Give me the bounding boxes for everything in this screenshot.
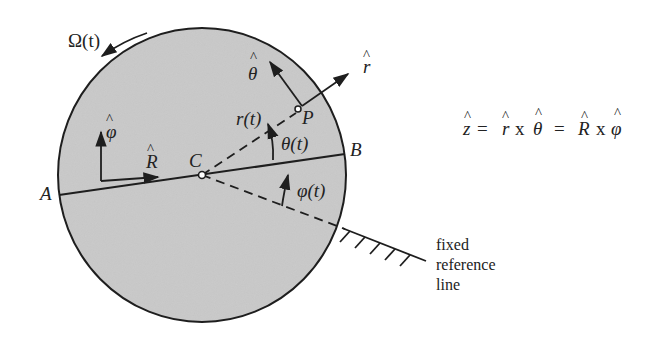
fixed-reference-caption: fixed reference line	[436, 236, 496, 293]
point-p-label: P	[301, 107, 314, 128]
point-b-label: B	[350, 139, 362, 160]
ground-hatch-icon	[340, 228, 426, 266]
caption-line-3: line	[436, 276, 460, 293]
cross-product-equation: ^ z = ^ r x ^ θ = ^ R x ^ φ	[462, 105, 622, 139]
phi-hat-label: φ	[106, 121, 117, 142]
theta-of-t-label: θ(t)	[281, 133, 308, 155]
point-c-label: C	[189, 150, 202, 171]
point-p-marker	[295, 106, 301, 112]
equation-equals-1: =	[477, 118, 488, 139]
equation-cross-1: x	[515, 118, 525, 139]
caption-line-2: reference	[436, 256, 496, 273]
R-hat-label: R	[145, 151, 158, 172]
point-a-label: A	[38, 183, 52, 204]
diagram-canvas: Ω(t) ^ θ ^ r ^ φ ^ R C P A B r(t) θ(t) φ…	[0, 0, 658, 344]
equation-z: z	[462, 118, 471, 139]
equation-phi: φ	[611, 118, 622, 139]
omega-label: Ω(t)	[68, 30, 100, 52]
equation-R: R	[577, 118, 590, 139]
equation-theta: θ	[533, 118, 542, 139]
equation-r: r	[502, 118, 510, 139]
r-hat-label: r	[363, 56, 371, 77]
phi-of-t-label: φ(t)	[297, 180, 325, 202]
theta-hat-label: θ	[248, 63, 257, 84]
point-c-marker	[199, 172, 206, 179]
equation-cross-2: x	[596, 118, 606, 139]
equation-equals-2: =	[554, 118, 565, 139]
r-of-t-label: r(t)	[236, 108, 261, 130]
caption-line-1: fixed	[436, 236, 469, 253]
